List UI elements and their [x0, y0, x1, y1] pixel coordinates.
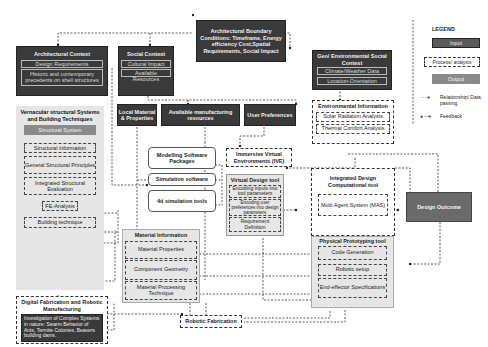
building-technique: Building technique: [24, 217, 96, 228]
digital-fabrication-title: Digital Fabrication and Robotic Manufact…: [17, 299, 107, 312]
multi-agent-system: Multi Agent System (MAS): [318, 194, 388, 216]
user-preferences-box: User Preferences: [244, 104, 296, 126]
digital-fabrication-box: Digital Fabrication and Robotic Manufact…: [16, 296, 108, 344]
modelling-software: Modelling Software Packages: [148, 147, 216, 169]
design-requirements: Design Requirements: [21, 60, 103, 68]
social-context-title: Social Context: [119, 51, 173, 58]
vernacular-systems-box: Vernacular structural Systems and Buildi…: [16, 106, 104, 290]
available-resources: Available Resources: [121, 69, 171, 77]
historic-precedents: Historic and contemporary precedents on …: [21, 69, 103, 86]
environmental-info-title: Environmental Information: [313, 103, 393, 110]
geo-context-title: Geo/ Environmental Social Context: [313, 53, 391, 66]
cultural-impact: Cultural Impact: [121, 60, 171, 68]
digital-fabrication-body: Investigation of Complex Systems in natu…: [21, 314, 103, 342]
solar-radiation-analysis: Solar Radiation Analysis: [316, 112, 390, 122]
general-structural-principles: General Structural Principles: [24, 156, 96, 174]
location-orientation: Location-Orientation: [317, 77, 387, 85]
requirement-definition: Requirement Definition: [229, 217, 281, 232]
virtual-design-tool-title: Virtual Design tool: [227, 177, 283, 184]
legend-title: LEGEND: [432, 26, 455, 33]
integrated-structural-evaluation: Integrated Structural Evaluation: [24, 177, 96, 195]
component-geometry: Component Geometry: [125, 260, 197, 280]
architectural-context-title: Architectural Context: [17, 51, 107, 58]
encoding-preferences: Encoding user preferences into design pa…: [229, 199, 281, 216]
legend-process: Process/ analysis: [424, 57, 480, 67]
vernacular-title: Vernacular structural Systems and Buildi…: [16, 109, 104, 122]
thermal-comfort-analysis: Thermal Comfort Analysis: [316, 124, 390, 134]
virtual-design-tool-box: Virtual Design tool Encoding inputs into…: [226, 174, 284, 236]
geo-context-box: Geo/ Environmental Social Context Climat…: [312, 50, 392, 90]
local-material-box: Local Material & Properties: [117, 104, 157, 126]
material-info-title: Material Information: [123, 232, 199, 239]
climate-weather-data: Climate/Weather Data: [317, 67, 387, 75]
4d-simulation-tools: 4d simulation tools: [148, 190, 216, 212]
boundary-conditions-box: Architectural Boundary Conditions: Timef…: [196, 20, 286, 62]
social-context-box: Social Context Cultural Impact Available…: [118, 46, 174, 96]
code-generation: Code Generation: [318, 246, 387, 260]
ive-box: Immersive Virtual Environments (IVE): [226, 148, 292, 167]
material-processing-technique: Material Processing Technique: [125, 281, 197, 300]
robotic-fabrication-box: Robotic Fabrication: [180, 315, 242, 328]
structural-information: Structural information: [24, 143, 96, 153]
legend: LEGEND Input Process/ analysis Output - …: [420, 26, 486, 126]
physical-prototyping-box: Physical Prototyping tool Code Generatio…: [311, 236, 394, 308]
material-properties: Material Properties: [125, 241, 197, 259]
structural-system: Structural System: [24, 125, 96, 135]
material-info-box: Material Information Material Properties…: [122, 229, 200, 303]
simulation-software: Simulation software: [148, 173, 216, 186]
physical-prototyping-title: Physical Prototyping tool: [312, 238, 393, 245]
design-outcome-box: Design Outcome: [406, 192, 472, 222]
integrated-design-tool-box: Integrated Design Computational tool Mul…: [311, 168, 395, 236]
fe-analysis: FE-Analysis: [42, 201, 78, 211]
manufacturing-resources-box: Available manufacturing resources: [161, 104, 240, 126]
architectural-context-box: Architectural Context Design Requirement…: [16, 46, 108, 96]
robotic-setup: Robotic setup: [318, 264, 387, 276]
encoding-inputs: Encoding inputs into tool parameters: [229, 185, 281, 198]
end-effector-specifications: End-effector Specifications: [318, 278, 387, 298]
legend-input: Input: [432, 38, 480, 48]
environmental-info-box: Environmental Information Solar Radiatio…: [312, 100, 394, 144]
legend-output: Output: [432, 74, 480, 84]
integrated-design-tool-title: Integrated Design Computational tool: [312, 175, 394, 188]
